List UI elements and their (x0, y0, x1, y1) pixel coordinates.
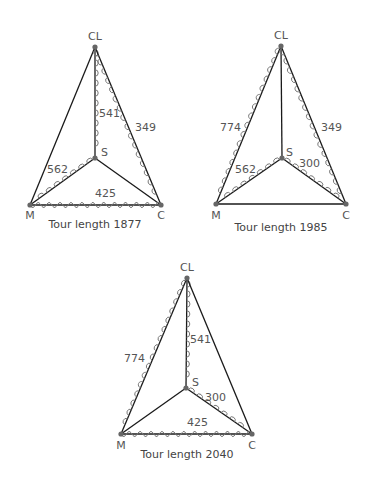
diagram-tour-2040: 774541300425CLSMCTour length 2040 (116, 261, 256, 461)
node-label-C: C (157, 209, 165, 222)
node-label-M: M (116, 439, 126, 452)
node-label-CL: CL (88, 30, 103, 43)
node-C (158, 202, 163, 207)
node-C (343, 201, 348, 206)
node-M (118, 431, 123, 436)
node-label-C: C (248, 439, 256, 452)
node-M (27, 202, 32, 207)
node-label-M: M (211, 209, 221, 222)
tour-diagrams-canvas: 541349562425CLSMCTour length 1877 774349… (0, 0, 367, 478)
diagram-tour-1877: 541349562425CLSMCTour length 1877 (25, 30, 165, 231)
edge-CL-M: 774 (216, 46, 281, 204)
edge-CL-S: 541 (186, 278, 211, 388)
edge-length-label: 774 (124, 352, 145, 365)
tour-length-caption: Tour length 1985 (233, 221, 327, 234)
edge-length-label: 300 (299, 157, 320, 170)
node-M (213, 201, 218, 206)
edge-length-label: 774 (220, 121, 241, 134)
node-label-CL: CL (274, 29, 289, 42)
diagram-tour-1985: 774349562300CLSMCTour length 1985 (211, 29, 350, 234)
edge-line (281, 46, 282, 158)
node-CL (278, 43, 283, 48)
tour-length-caption: Tour length 2040 (139, 448, 233, 461)
edge-length-label: 300 (205, 391, 226, 404)
node-CL (92, 44, 97, 49)
node-label-S: S (286, 146, 293, 159)
node-C (249, 431, 254, 436)
node-S (92, 155, 97, 160)
node-CL (184, 275, 189, 280)
node-label-CL: CL (180, 261, 195, 274)
node-label-S: S (192, 376, 199, 389)
tour-length-caption: Tour length 1877 (47, 218, 141, 231)
edge-M-C: 425 (121, 416, 252, 437)
node-label-C: C (342, 209, 350, 222)
edge-length-label: 425 (95, 187, 116, 200)
node-S (279, 155, 284, 160)
edge-length-label: 349 (321, 121, 342, 134)
edge-line (186, 278, 187, 388)
edge-length-label: 562 (235, 163, 256, 176)
edge-length-label: 562 (47, 163, 68, 176)
node-label-M: M (25, 209, 35, 222)
edge-length-label: 541 (190, 333, 211, 346)
edge-length-label: 349 (135, 121, 156, 134)
node-S (183, 385, 188, 390)
edge-length-label: 425 (187, 416, 208, 429)
edge-CL-S (281, 46, 282, 158)
node-label-S: S (101, 146, 108, 159)
